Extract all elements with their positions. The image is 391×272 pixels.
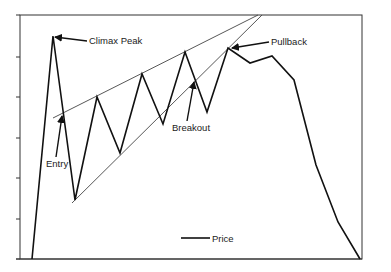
y-axis-ticks [16,15,362,259]
arrow-entry [56,116,62,157]
label-pullback: Pullback [271,36,307,47]
upper-channel-line [53,15,258,118]
price-series-line [32,36,360,259]
annotation-climax-peak: Climax Peak [55,35,143,46]
label-breakout: Breakout [172,122,210,133]
arrow-climax-peak [55,37,87,41]
arrow-pullback [232,42,269,48]
label-entry: Entry [46,158,68,169]
label-climax-peak: Climax Peak [89,35,143,46]
legend: Price [181,233,234,244]
plot-frame [20,15,362,259]
price-chart: Climax PeakEntryBreakoutPullback Price [0,0,391,272]
legend-label-price: Price [212,233,234,244]
annotation-pullback: Pullback [232,36,307,48]
